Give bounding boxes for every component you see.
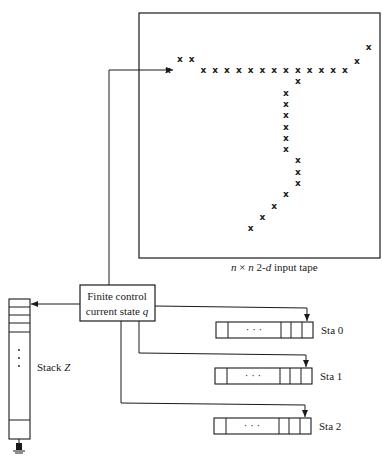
sta0-connector bbox=[155, 306, 307, 321]
tape-mark: x bbox=[271, 201, 277, 211]
tape-mark: x bbox=[307, 65, 313, 75]
tape-mark: x bbox=[342, 65, 348, 75]
tape-mark: x bbox=[283, 144, 289, 154]
tape-mark: x bbox=[330, 65, 336, 75]
tape-mark: x bbox=[295, 178, 301, 188]
tape-mark: x bbox=[295, 76, 301, 86]
tape-mark: x bbox=[200, 65, 206, 75]
tape-mark: x bbox=[236, 65, 242, 75]
stack-border bbox=[9, 299, 30, 439]
tape-mark: x bbox=[318, 65, 324, 75]
stack: Stack Z bbox=[9, 299, 71, 453]
tape-mark: x bbox=[366, 42, 372, 52]
tape-mark: x bbox=[248, 65, 254, 75]
tape-mark: x bbox=[283, 122, 289, 132]
storage-tape-border bbox=[214, 418, 311, 434]
tape-mark: x bbox=[283, 133, 289, 143]
tape-mark: x bbox=[177, 54, 183, 64]
storage-tape-label: Sta 2 bbox=[319, 420, 341, 432]
finite-control-label: Finite control bbox=[87, 290, 147, 302]
tape-mark: x bbox=[295, 167, 301, 177]
tape-mark: x bbox=[283, 110, 289, 120]
tape-mark: x bbox=[283, 189, 289, 199]
storage-tape-label: Sta 1 bbox=[320, 370, 342, 382]
tape-mark: x bbox=[259, 65, 265, 75]
storage-tape-0: · · ·Sta 0 bbox=[216, 322, 344, 338]
tape-mark: x bbox=[354, 56, 360, 66]
storage-tapes: · · ·Sta 0· · ·Sta 1· · ·Sta 2 bbox=[214, 322, 344, 434]
tape-mark: x bbox=[295, 65, 301, 75]
sta2-connector bbox=[121, 321, 305, 417]
storage-tape-border bbox=[216, 322, 313, 338]
stack-dot bbox=[18, 365, 20, 367]
automaton-diagram: xxxxxxxxxxxxxxxxxxxxxxxxxxxxxxxx n × n 2… bbox=[0, 0, 383, 457]
tape-mark: x bbox=[283, 99, 289, 109]
tape-mark: x bbox=[259, 212, 265, 222]
storage-tape-1: · · ·Sta 1 bbox=[215, 368, 342, 384]
ground-symbol-icon bbox=[13, 439, 25, 453]
tape-mark: x bbox=[283, 65, 289, 75]
stack-dot bbox=[18, 349, 20, 351]
storage-tape-label: Sta 0 bbox=[321, 324, 344, 336]
stack-dot bbox=[18, 357, 20, 359]
storage-tape-2: · · ·Sta 2 bbox=[214, 418, 341, 434]
input-tape: xxxxxxxxxxxxxxxxxxxxxxxxxxxxxxxx n × n 2… bbox=[139, 13, 380, 273]
stack-label: Stack Z bbox=[37, 361, 71, 373]
storage-tape-ellipsis: · · · bbox=[245, 369, 262, 381]
tape-mark: x bbox=[271, 65, 277, 75]
tape-mark: x bbox=[224, 65, 230, 75]
tape-mark: x bbox=[248, 223, 254, 233]
tape-mark: x bbox=[189, 54, 195, 64]
storage-tape-border bbox=[215, 368, 312, 384]
input-tape-caption: n × n 2-d input tape bbox=[231, 261, 318, 273]
storage-tape-ellipsis: · · · bbox=[246, 323, 263, 335]
current-state-label: current state q bbox=[86, 305, 149, 317]
finite-control: Finite control current state q bbox=[80, 285, 155, 321]
tape-head-connector bbox=[109, 70, 173, 285]
storage-tape-ellipsis: · · · bbox=[244, 419, 261, 431]
tape-mark: x bbox=[295, 155, 301, 165]
tape-marks: xxxxxxxxxxxxxxxxxxxxxxxxxxxxxxxx bbox=[165, 42, 372, 233]
tape-mark: x bbox=[283, 88, 289, 98]
tape-mark: x bbox=[212, 65, 218, 75]
